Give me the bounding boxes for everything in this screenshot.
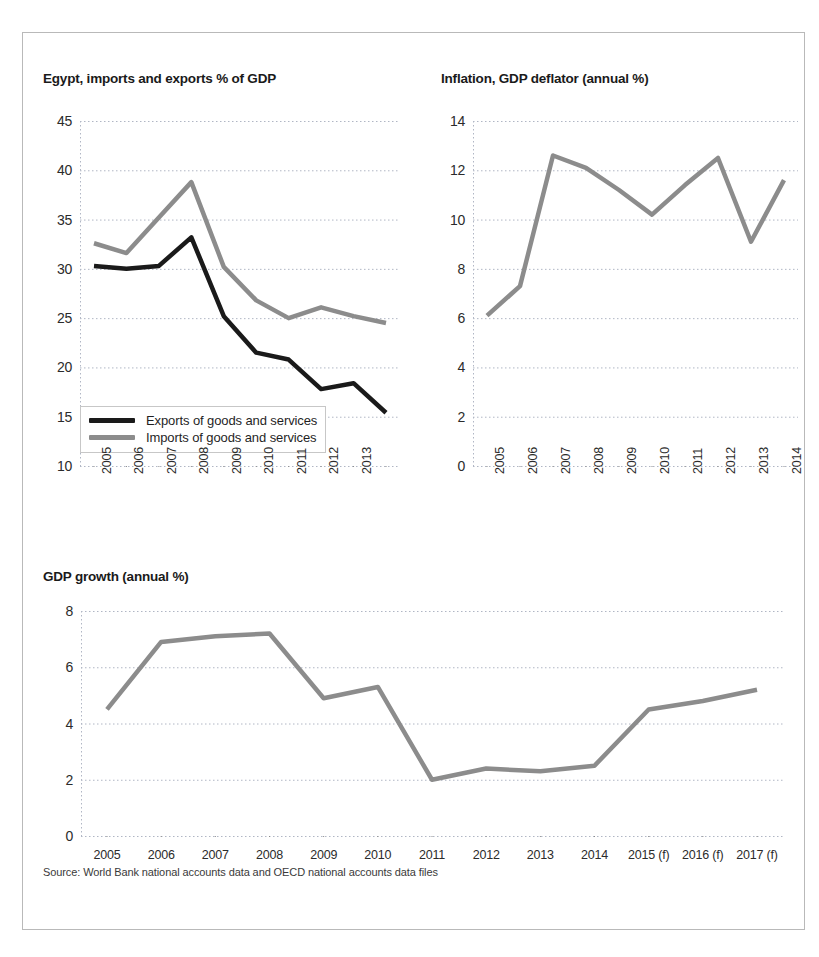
y-tick-label: 8	[39, 603, 73, 619]
y-tick-label: 10	[38, 458, 72, 474]
x-tick-label: 2005	[493, 447, 507, 474]
x-tick-label: 2007	[202, 848, 229, 862]
x-tick-label: 2011	[419, 848, 445, 862]
x-tick-label: 2014	[581, 848, 608, 862]
x-tick-label: 2012	[724, 447, 738, 474]
x-tick-label: 2009	[230, 447, 244, 474]
x-tick-label: 2006	[526, 447, 540, 474]
x-tick-label: 2012	[473, 848, 500, 862]
figure-frame: Egypt, imports and exports % of GDP Expo…	[22, 32, 805, 930]
x-tick-label: 2005	[93, 848, 120, 862]
chart-panel-trade: Egypt, imports and exports % of GDP Expo…	[23, 33, 423, 503]
legend-item-exports: Exports of goods and services	[89, 412, 317, 429]
chart-panel-inflation: Inflation, GDP deflator (annual %) 02468…	[421, 33, 806, 503]
chart-canvas	[473, 121, 798, 467]
x-tick-label: 2014	[790, 447, 804, 474]
legend-swatch-exports	[89, 418, 135, 423]
x-tick-label: 2006	[132, 447, 146, 474]
x-tick-label: 2005	[100, 447, 114, 474]
y-tick-label: 35	[38, 212, 72, 228]
x-tick-label: 2007	[165, 447, 179, 474]
y-tick-label: 20	[38, 359, 72, 375]
x-tick-label: 2008	[592, 447, 606, 474]
y-tick-label: 0	[431, 458, 465, 474]
y-tick-label: 45	[38, 113, 72, 129]
data-series-line	[94, 182, 386, 323]
y-tick-label: 2	[39, 772, 73, 788]
y-tick-label: 14	[431, 113, 465, 129]
x-tick-label: 2010	[364, 848, 391, 862]
legend-label-imports: Imports of goods and services	[146, 430, 317, 445]
chart-title-inflation: Inflation, GDP deflator (annual %)	[441, 71, 648, 86]
x-tick-label: 2011	[295, 448, 309, 474]
x-tick-label: 2016 (f)	[682, 848, 723, 862]
x-tick-label: 2012	[327, 447, 341, 474]
plot-area-gdp-growth	[81, 611, 783, 836]
y-tick-label: 0	[39, 828, 73, 844]
x-tick-label: 2009	[310, 848, 337, 862]
y-tick-label: 15	[38, 409, 72, 425]
chart-panel-gdp-growth: GDP growth (annual %) 024682005200620072…	[23, 533, 806, 883]
x-tick-label: 2008	[197, 447, 211, 474]
chart-canvas	[81, 611, 783, 837]
x-tick-label: 2013	[360, 447, 374, 474]
legend-item-imports: Imports of goods and services	[89, 429, 317, 446]
x-tick-label: 2013	[757, 447, 771, 474]
y-tick-label: 6	[431, 310, 465, 326]
x-tick-label: 2011	[691, 448, 705, 474]
data-series-line	[487, 156, 784, 316]
legend-swatch-imports	[89, 435, 135, 440]
x-tick-label: 2009	[625, 447, 639, 474]
x-tick-label: 2008	[256, 848, 283, 862]
y-tick-label: 40	[38, 162, 72, 178]
y-tick-label: 4	[39, 716, 73, 732]
source-note: Source: World Bank national accounts dat…	[43, 866, 438, 878]
y-tick-label: 12	[431, 162, 465, 178]
y-tick-label: 4	[431, 359, 465, 375]
x-tick-label: 2013	[527, 848, 554, 862]
y-tick-label: 6	[39, 659, 73, 675]
data-series-line	[107, 634, 757, 780]
y-tick-label: 8	[431, 261, 465, 277]
x-tick-label: 2007	[559, 447, 573, 474]
y-tick-label: 10	[431, 212, 465, 228]
x-tick-label: 2015 (f)	[628, 848, 669, 862]
x-tick-label: 2006	[148, 848, 175, 862]
legend-trade: Exports of goods and services Imports of…	[80, 406, 326, 453]
x-tick-label: 2010	[658, 447, 672, 474]
y-tick-label: 30	[38, 261, 72, 277]
y-tick-label: 2	[431, 409, 465, 425]
x-tick-label: 2017 (f)	[736, 848, 777, 862]
x-tick-label: 2010	[262, 447, 276, 474]
legend-label-exports: Exports of goods and services	[146, 413, 317, 428]
plot-area-inflation	[473, 121, 798, 466]
chart-title-trade: Egypt, imports and exports % of GDP	[43, 71, 276, 86]
data-series-line	[94, 237, 386, 412]
chart-title-gdp-growth: GDP growth (annual %)	[43, 569, 189, 584]
y-tick-label: 25	[38, 310, 72, 326]
